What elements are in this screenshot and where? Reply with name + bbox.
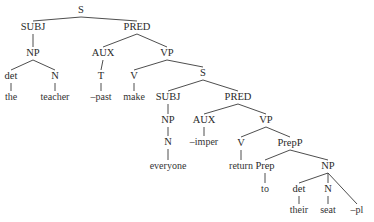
edge-pred1-vp1 — [137, 34, 167, 47]
terminal-word-w_pl: –pl — [351, 204, 364, 216]
node-label-aux2: AUX — [193, 114, 216, 126]
terminal-word-w_imper: –imper — [190, 136, 218, 148]
terminal-word-w_to: to — [261, 183, 269, 195]
node-label-np2: NP — [161, 114, 174, 126]
edge-np3-det2 — [299, 173, 328, 183]
node-label-n3: N — [324, 183, 332, 195]
edge-prepp-np3 — [290, 150, 328, 160]
edge-s2-subj2 — [168, 80, 203, 91]
terminal-word-w_return: return — [229, 160, 253, 172]
node-label-prep: Prep — [255, 160, 274, 172]
edge-s2-pred2 — [203, 80, 238, 91]
edge-vp2-prepp — [266, 127, 290, 137]
edge-pred2-aux2 — [204, 104, 238, 114]
terminal-word-w_teacher: teacher — [41, 91, 70, 103]
terminal-word-w_seat: seat — [320, 204, 336, 216]
node-label-subj1: SUBJ — [21, 21, 46, 33]
edge-aux1-t1 — [101, 60, 103, 70]
edge-np1-n1 — [33, 60, 55, 70]
edge-np1-det1 — [11, 60, 33, 70]
node-label-s1: S — [78, 4, 84, 16]
node-label-np1: NP — [26, 47, 39, 59]
node-label-v1: V — [130, 70, 138, 82]
node-label-vp1: VP — [160, 47, 173, 59]
edge-np3-w_pl — [328, 173, 357, 204]
terminal-word-w_the: the — [5, 91, 17, 103]
edge-vp1-s2 — [167, 60, 203, 67]
node-label-t1: T — [98, 70, 104, 82]
edge-prepp-prep — [265, 150, 290, 160]
edge-pred1-aux1 — [103, 34, 137, 47]
terminal-word-w_make: make — [123, 91, 145, 103]
edge-vp1-v1 — [134, 60, 167, 70]
syntax-tree-diagram: SSUBJPREDNPAUXVPdetNTVStheteacher–pastma… — [0, 0, 374, 222]
node-label-det2: det — [293, 183, 306, 195]
node-label-n2: N — [164, 136, 172, 148]
node-label-n1: N — [51, 70, 59, 82]
node-label-det1: det — [5, 70, 18, 82]
terminal-word-w_past: –past — [90, 91, 111, 103]
edge-vp2-v2 — [241, 127, 266, 137]
node-label-np3: NP — [321, 160, 334, 172]
terminal-word-w_everyone: everyone — [150, 160, 187, 172]
node-label-vp2: VP — [259, 114, 272, 126]
terminal-word-w_their: their — [290, 204, 308, 216]
node-label-subj2: SUBJ — [156, 91, 181, 103]
edge-pred2-vp2 — [238, 104, 266, 114]
tree-edges — [0, 0, 374, 222]
node-label-aux1: AUX — [92, 47, 115, 59]
node-label-pred2: PRED — [225, 91, 252, 103]
node-label-prepp: PrepP — [277, 137, 302, 149]
node-label-s2: S — [200, 67, 206, 79]
node-label-v2: V — [237, 137, 245, 149]
node-label-pred1: PRED — [124, 21, 151, 33]
